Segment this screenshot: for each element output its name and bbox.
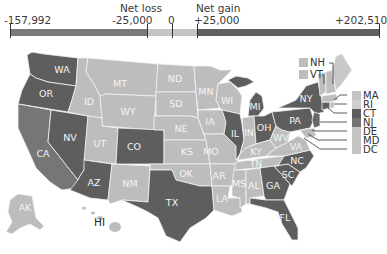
svg-text:WI: WI bbox=[221, 95, 233, 106]
svg-text:WA: WA bbox=[54, 64, 70, 75]
svg-text:CO: CO bbox=[127, 141, 141, 152]
svg-text:OK: OK bbox=[179, 168, 193, 179]
svg-text:VA: VA bbox=[290, 141, 303, 152]
svg-text:PA: PA bbox=[289, 115, 301, 126]
svg-text:OH: OH bbox=[257, 122, 272, 133]
hawaii-label: HI bbox=[94, 216, 105, 228]
svg-text:NY: NY bbox=[300, 93, 313, 104]
svg-text:SD: SD bbox=[169, 98, 182, 109]
svg-text:MS: MS bbox=[232, 178, 246, 189]
svg-text:NC: NC bbox=[290, 155, 304, 166]
swatch-ct bbox=[352, 109, 361, 118]
state-ND[interactable]: ND bbox=[156, 64, 196, 92]
svg-text:AZ: AZ bbox=[87, 177, 100, 188]
swatch-md bbox=[352, 136, 361, 145]
svg-text:IA: IA bbox=[205, 116, 215, 127]
svg-text:KS: KS bbox=[181, 146, 193, 157]
state-CO[interactable]: CO bbox=[116, 128, 164, 164]
swatch-ma bbox=[352, 91, 361, 100]
svg-text:MT: MT bbox=[113, 78, 127, 89]
svg-text:FL: FL bbox=[280, 212, 291, 223]
svg-text:TX: TX bbox=[165, 197, 179, 208]
svg-text:IL: IL bbox=[231, 128, 240, 139]
svg-text:ND: ND bbox=[168, 73, 182, 84]
state-RI[interactable] bbox=[330, 102, 334, 108]
swatch-nj bbox=[352, 118, 361, 127]
swatch-de bbox=[352, 127, 361, 136]
svg-text:GA: GA bbox=[266, 180, 280, 191]
svg-text:NV: NV bbox=[63, 132, 77, 143]
swatch-ri bbox=[352, 100, 361, 109]
state-NM[interactable]: NM bbox=[108, 164, 150, 204]
svg-text:SC: SC bbox=[282, 169, 295, 180]
svg-text:ID: ID bbox=[84, 96, 94, 107]
swatch-nh bbox=[299, 58, 308, 67]
state-SD[interactable]: SD bbox=[156, 92, 198, 118]
svg-text:NE: NE bbox=[174, 123, 187, 134]
state-WY[interactable]: WY bbox=[100, 94, 156, 130]
svg-text:WV: WV bbox=[273, 132, 289, 143]
svg-text:AR: AR bbox=[212, 170, 225, 181]
state-MA[interactable] bbox=[322, 94, 338, 102]
swatch-dc bbox=[352, 145, 361, 154]
state-AK[interactable]: AK bbox=[6, 194, 44, 234]
svg-text:AL: AL bbox=[248, 180, 260, 191]
svg-text:MO: MO bbox=[203, 146, 219, 157]
svg-text:CA: CA bbox=[36, 148, 50, 159]
callout-nh: NH bbox=[310, 58, 325, 68]
svg-text:NM: NM bbox=[122, 178, 137, 189]
svg-text:UT: UT bbox=[94, 138, 107, 149]
svg-text:TN: TN bbox=[249, 158, 263, 169]
svg-text:MI: MI bbox=[250, 101, 261, 112]
svg-text:KY: KY bbox=[250, 146, 262, 157]
state-FL[interactable]: FL bbox=[250, 198, 298, 240]
svg-text:OR: OR bbox=[39, 88, 53, 99]
state-MT[interactable]: MT bbox=[86, 58, 158, 96]
svg-text:WY: WY bbox=[120, 106, 135, 117]
svg-text:IN: IN bbox=[244, 127, 254, 138]
callout-dc: DC bbox=[363, 145, 378, 155]
swatch-vt bbox=[299, 70, 308, 79]
svg-text:AK: AK bbox=[19, 202, 32, 213]
state-NJ[interactable] bbox=[312, 112, 320, 128]
svg-text:LA: LA bbox=[216, 193, 229, 204]
state-DE-MD[interactable] bbox=[300, 128, 316, 138]
svg-text:MN: MN bbox=[198, 86, 213, 97]
state-ME[interactable] bbox=[332, 54, 352, 90]
callout-vt: VT bbox=[310, 70, 323, 80]
